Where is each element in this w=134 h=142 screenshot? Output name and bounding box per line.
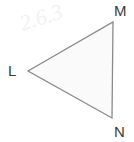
geometry-figure: 2.6.3 M L N (0, 0, 134, 142)
triangle-diagram (0, 0, 134, 142)
vertex-label-l: L (8, 63, 16, 78)
vertex-label-m: M (114, 3, 127, 18)
triangle-lmn-shape (28, 22, 113, 118)
vertex-label-n: N (114, 124, 125, 139)
